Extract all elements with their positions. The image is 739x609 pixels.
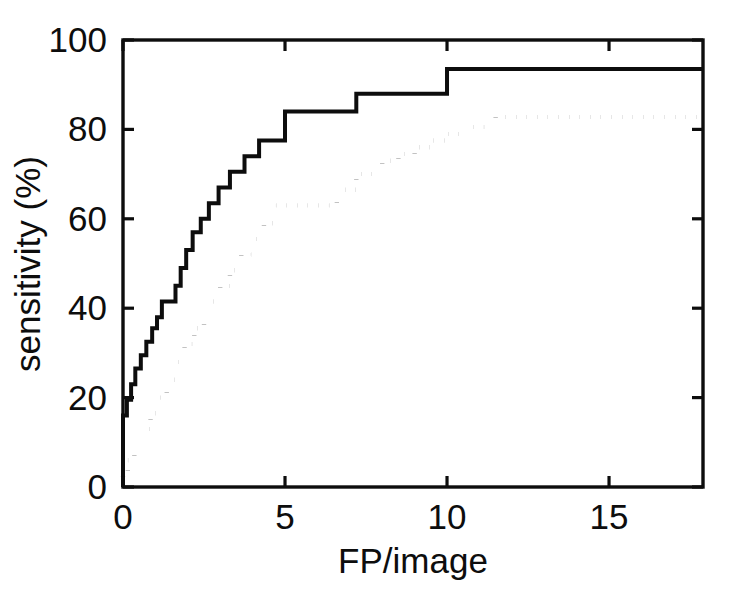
x-tick-label: 10 [428,497,467,536]
y-tick-label: 0 [88,467,107,506]
x-axis-title: FP/image [338,541,488,580]
series-dotted-curve [123,117,703,487]
y-tick-label: 100 [49,20,107,59]
y-tick-label: 20 [68,378,107,417]
y-axis-tick-labels: 020406080100 [49,20,107,506]
x-tick-label: 15 [590,497,629,536]
y-axis-ticks [123,40,703,487]
x-axis-ticks [123,40,609,487]
plot-frame [123,40,703,487]
figure-canvas: 051015 020406080100 FP/image sensitivity… [0,0,739,609]
x-axis-tick-labels: 051015 [113,497,628,536]
series-solid-curve [123,69,703,487]
x-tick-label: 5 [275,497,294,536]
y-axis-title: sensitivity (%) [8,156,47,372]
chart-svg: 051015 020406080100 FP/image sensitivity… [0,0,739,609]
y-tick-label: 40 [68,288,107,327]
y-tick-label: 60 [68,199,107,238]
x-tick-label: 0 [113,497,132,536]
y-tick-label: 80 [68,109,107,148]
